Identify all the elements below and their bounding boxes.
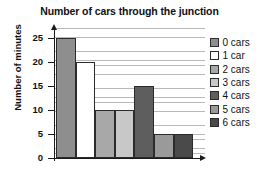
y-tick-mark xyxy=(48,38,55,39)
legend-item-0-cars[interactable]: 0 cars xyxy=(210,36,269,49)
y-tick-label: 20 xyxy=(32,56,43,67)
bar-5-cars xyxy=(154,134,174,158)
legend-swatch-icon xyxy=(210,38,219,47)
legend-label: 6 cars xyxy=(223,117,250,128)
legend-item-4-cars[interactable]: 4 cars xyxy=(210,89,269,102)
legend-swatch-icon xyxy=(210,105,219,114)
y-tick-mark xyxy=(48,62,55,63)
legend-label: 5 cars xyxy=(223,104,250,115)
legend-swatch-icon xyxy=(210,78,219,87)
legend-item-5-cars[interactable]: 5 cars xyxy=(210,102,269,115)
bar-0-cars xyxy=(56,38,76,158)
y-tick-mark xyxy=(48,110,55,111)
y-tick-label: 5 xyxy=(38,128,43,139)
bar-4-cars xyxy=(134,86,154,158)
y-tick-mark xyxy=(48,86,55,87)
chart-title: Number of cars through the junction xyxy=(22,5,237,17)
y-tick-label: 25 xyxy=(32,32,43,43)
bar-chart: Number of cars through the junction Numb… xyxy=(0,0,269,191)
bar-6-cars xyxy=(174,134,194,158)
legend-label: 3 cars xyxy=(223,77,250,88)
plot-inner xyxy=(54,28,205,158)
y-tick-label: 15 xyxy=(32,80,43,91)
plot-area: 0510152025 xyxy=(46,28,205,165)
legend-label: 4 cars xyxy=(223,90,250,101)
y-axis-arrow-icon xyxy=(51,24,57,30)
y-tick-label: 10 xyxy=(32,104,43,115)
legend-label: 1 car xyxy=(223,50,245,61)
legend-label: 2 cars xyxy=(223,64,250,75)
y-tick-label: 0 xyxy=(38,152,43,163)
legend: 0 cars1 car2 cars3 cars4 cars5 cars6 car… xyxy=(210,36,269,129)
legend-swatch-icon xyxy=(210,65,219,74)
x-axis-line xyxy=(54,158,202,159)
y-axis-label: Number of minutes xyxy=(12,20,23,116)
bar-1-car xyxy=(76,62,96,158)
legend-item-3-cars[interactable]: 3 cars xyxy=(210,76,269,89)
bar-3-cars xyxy=(115,110,135,158)
y-tick-mark xyxy=(48,134,55,135)
x-axis-arrow-icon xyxy=(200,155,206,161)
legend-item-2-cars[interactable]: 2 cars xyxy=(210,63,269,76)
legend-item-6-cars[interactable]: 6 cars xyxy=(210,116,269,129)
bar-2-cars xyxy=(95,110,115,158)
legend-item-1-car[interactable]: 1 car xyxy=(210,49,269,62)
legend-swatch-icon xyxy=(210,118,219,127)
legend-swatch-icon xyxy=(210,91,219,100)
y-tick-mark xyxy=(48,158,55,159)
legend-label: 0 cars xyxy=(223,37,250,48)
y-axis-line xyxy=(54,30,55,161)
legend-swatch-icon xyxy=(210,51,219,60)
